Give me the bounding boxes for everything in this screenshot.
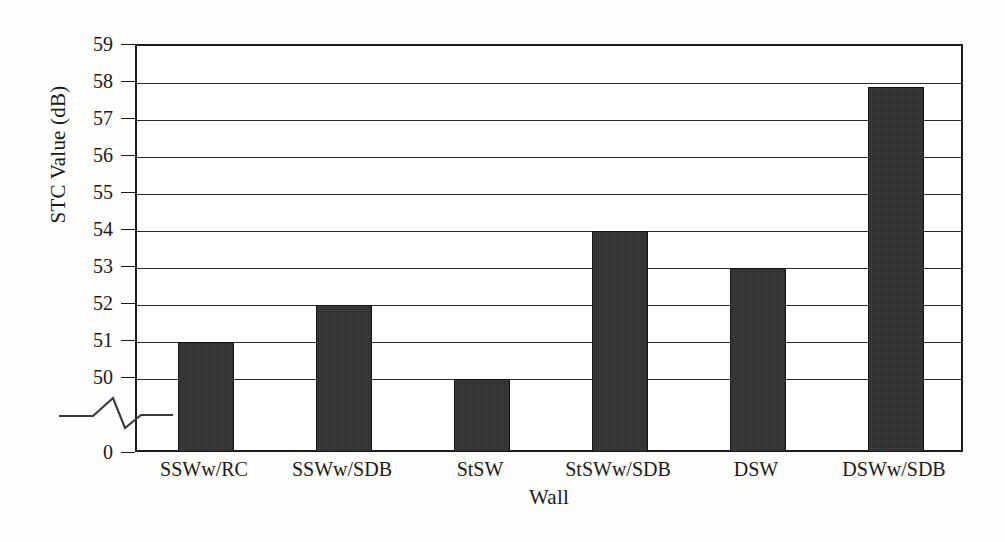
bar: [178, 342, 234, 452]
gridline: [137, 157, 961, 158]
axis-break-icon: [55, 388, 175, 432]
y-tick-mark: [121, 192, 135, 193]
plot-area: [135, 44, 963, 452]
y-tick-label: 55: [43, 182, 113, 202]
bar: [316, 305, 372, 452]
y-tick-label: 53: [43, 256, 113, 276]
x-axis-title: Wall: [135, 485, 963, 510]
y-tick-mark: [121, 118, 135, 119]
y-tick-mark: [121, 229, 135, 230]
y-tick-mark: [121, 340, 135, 341]
chart-figure: STC Value (dB) 595857565554535251500 SSW…: [0, 0, 1005, 542]
gridline: [137, 268, 961, 269]
y-tick-mark: [121, 303, 135, 304]
y-tick-label: 52: [43, 293, 113, 313]
gridline: [137, 83, 961, 84]
y-tick-mark: [121, 155, 135, 156]
x-tick-label: SSWw/RC: [135, 457, 273, 481]
x-tick-label: SSWw/SDB: [273, 457, 411, 481]
y-tick-label: 57: [43, 108, 113, 128]
y-tick-label: 51: [43, 330, 113, 350]
bar: [868, 87, 924, 452]
gridline: [137, 120, 961, 121]
y-tick-mark: [121, 44, 135, 45]
gridline: [137, 231, 961, 232]
y-tick-label: 59: [43, 34, 113, 54]
gridline: [137, 379, 961, 380]
x-tick-label: DSW: [687, 457, 825, 481]
bar: [730, 268, 786, 452]
y-tick-mark: [121, 81, 135, 82]
bar: [454, 379, 510, 452]
y-tick-label: 0: [43, 442, 113, 462]
gridline: [137, 194, 961, 195]
gridline: [137, 305, 961, 306]
y-tick-mark: [121, 266, 135, 267]
bar: [592, 231, 648, 452]
y-tick-label: 56: [43, 145, 113, 165]
gridline: [137, 342, 961, 343]
x-tick-label: DSWw/SDB: [825, 457, 963, 481]
y-tick-label: 54: [43, 219, 113, 239]
x-tick-label: StSWw/SDB: [549, 457, 687, 481]
y-tick-label: 58: [43, 71, 113, 91]
x-tick-label: StSW: [411, 457, 549, 481]
y-tick-label: 50: [43, 367, 113, 387]
y-tick-mark: [121, 452, 135, 453]
y-tick-mark: [121, 377, 135, 378]
